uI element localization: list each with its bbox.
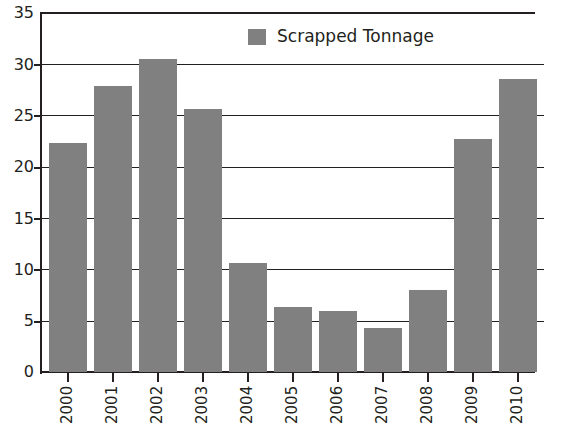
bar-2007 — [364, 328, 402, 372]
x-tick-label-2006: 2006 — [330, 378, 345, 424]
bar-2009 — [454, 139, 492, 372]
x-tick-label-2009: 2009 — [465, 378, 480, 424]
x-tick-label-2008: 2008 — [420, 378, 435, 424]
y-tick-label-15: 15 — [0, 211, 34, 227]
x-tick-label-2001: 2001 — [105, 378, 120, 424]
bar-2003 — [184, 109, 222, 372]
legend-swatch-scrapped-tonnage — [248, 29, 266, 45]
y-tick-label-5: 5 — [0, 313, 34, 329]
bar-2008 — [409, 290, 447, 372]
y-tick-right-30 — [535, 64, 544, 65]
x-axis-labels: 2000 2001 2002 2003 2004 2005 2006 2007 … — [41, 384, 541, 424]
legend: Scrapped Tonnage — [248, 28, 434, 45]
bar-2001 — [94, 86, 132, 372]
bar-2000 — [49, 143, 87, 372]
y-tick-label-35: 35 — [0, 5, 34, 21]
bar-2004 — [229, 263, 267, 372]
bar-2010 — [499, 79, 537, 372]
bar-2006 — [319, 311, 357, 373]
x-tick-label-2007: 2007 — [375, 378, 390, 424]
x-tick-label-2004: 2004 — [240, 378, 255, 424]
legend-label-scrapped-tonnage: Scrapped Tonnage — [277, 28, 434, 45]
y-tick-label-20: 20 — [0, 159, 34, 175]
bar-2002 — [139, 59, 177, 372]
x-tick-label-2000: 2000 — [60, 378, 75, 424]
bar-2005 — [274, 307, 312, 372]
y-axis-labels: 35 30 25 20 15 10 5 0 — [0, 0, 34, 424]
x-tick-label-2002: 2002 — [150, 378, 165, 424]
y-tick-label-0: 0 — [0, 364, 34, 380]
x-tick-label-2010: 2010 — [510, 378, 525, 424]
y-tick-label-30: 30 — [0, 57, 34, 73]
x-tick-label-2005: 2005 — [285, 378, 300, 424]
bar-chart: 35 30 25 20 15 10 5 0 — [0, 0, 575, 424]
bars-layer — [41, 13, 535, 372]
y-tick-label-25: 25 — [0, 108, 34, 124]
x-tick-label-2003: 2003 — [195, 378, 210, 424]
y-tick-label-10: 10 — [0, 262, 34, 278]
